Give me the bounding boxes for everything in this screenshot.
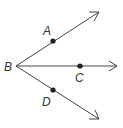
ray-ba	[16, 12, 99, 66]
point-a	[50, 38, 55, 43]
label-d: D	[42, 95, 51, 109]
ray-bd	[16, 66, 99, 119]
angle-diagram: A B C D	[0, 0, 123, 128]
label-c: C	[75, 71, 84, 85]
point-d	[50, 87, 55, 92]
label-a: A	[42, 24, 51, 38]
label-b: B	[4, 60, 12, 74]
point-c	[77, 63, 82, 68]
